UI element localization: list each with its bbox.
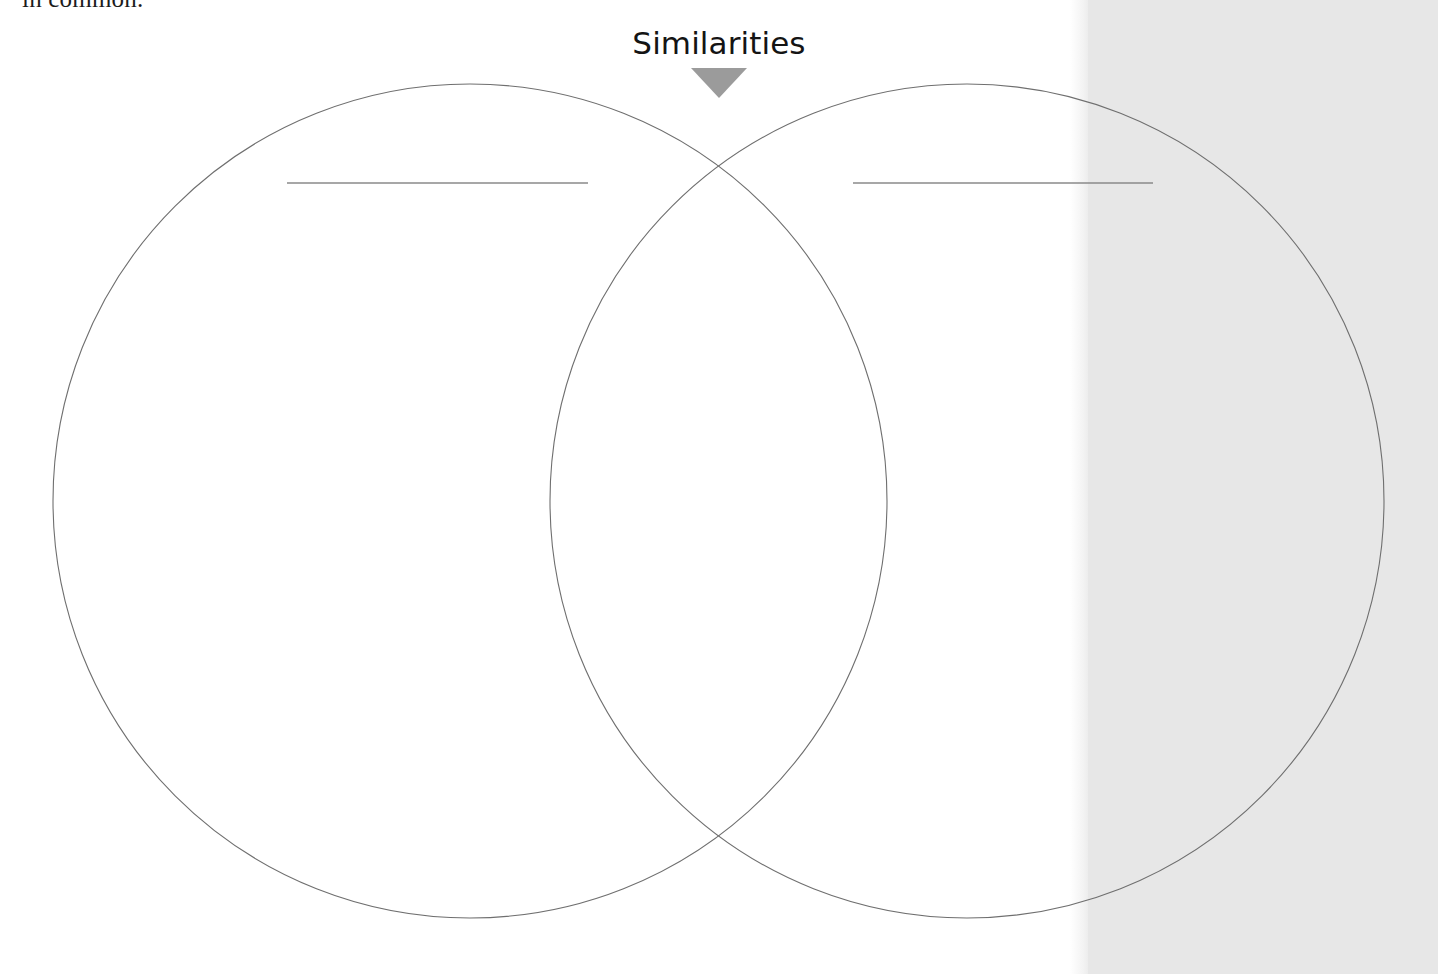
right-circle [550,84,1384,918]
worksheet-page: in common. Similarities [0,0,1438,974]
left-circle [53,84,887,918]
venn-diagram [0,0,1438,974]
